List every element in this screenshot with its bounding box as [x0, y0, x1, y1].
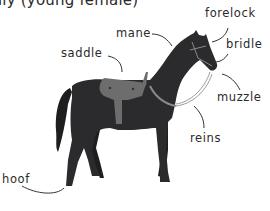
- label-bridle: bridle: [226, 37, 262, 51]
- label-reins: reins: [190, 131, 221, 145]
- label-muzzle: muzzle: [217, 90, 261, 104]
- label-saddle: saddle: [61, 46, 103, 60]
- label-mane: mane: [116, 26, 151, 40]
- label-forelock: forelock: [205, 6, 256, 20]
- horse-tail: [56, 88, 72, 152]
- label-hoof: hoof: [2, 172, 30, 186]
